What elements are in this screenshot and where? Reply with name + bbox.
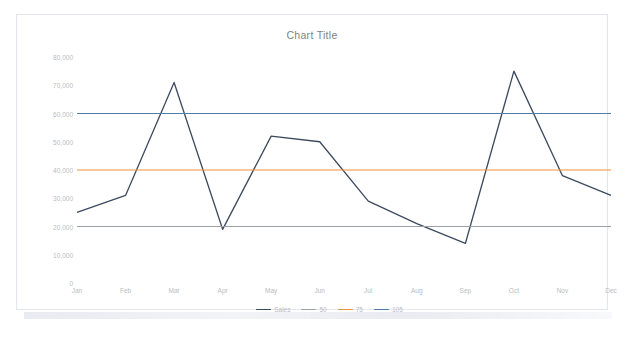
legend-item[interactable]: Sales (256, 306, 290, 313)
x-axis-tick-label: May (251, 287, 291, 294)
legend-item-label: 75 (356, 306, 363, 313)
legend-item[interactable]: 50 (301, 306, 326, 313)
x-axis-tick-label: Jan (57, 287, 97, 294)
x-axis-tick-label: Feb (106, 287, 146, 294)
x-axis-tick-label: Dec (591, 287, 625, 294)
x-axis-tick-label: Sep (445, 287, 485, 294)
y-axis-tick-label: 50,000 (33, 138, 73, 145)
x-axis[interactable]: JanFebMarAprMayJunJulAugSepOctNovDec (77, 287, 611, 301)
legend-swatch-icon (338, 309, 353, 311)
x-axis-tick-label: Nov (542, 287, 582, 294)
chart-legend[interactable]: Sales5075105 (17, 306, 625, 313)
y-axis-tick-label: 80,000 (33, 54, 73, 61)
y-axis-tick-label: 0 (33, 280, 73, 287)
x-axis-tick-label: Jun (300, 287, 340, 294)
x-axis-tick-label: Jul (348, 287, 388, 294)
x-axis-tick-label: Aug (397, 287, 437, 294)
y-axis[interactable]: 010,00020,00030,00040,00050,00060,00070,… (31, 57, 73, 283)
x-axis-tick-label: Oct (494, 287, 534, 294)
legend-item[interactable]: 75 (338, 306, 363, 313)
series-line[interactable] (77, 71, 611, 243)
y-axis-tick-label: 60,000 (33, 110, 73, 117)
y-axis-tick-label: 10,000 (33, 251, 73, 258)
legend-swatch-icon (301, 309, 316, 311)
legend-item-label: 50 (319, 306, 326, 313)
plot-svg (77, 57, 611, 283)
y-axis-tick-label: 30,000 (33, 195, 73, 202)
legend-item[interactable]: 105 (374, 306, 403, 313)
legend-swatch-icon (256, 309, 271, 311)
chart-title[interactable]: Chart Title (17, 29, 607, 41)
plot-area[interactable] (77, 57, 611, 283)
x-axis-tick-label: Apr (203, 287, 243, 294)
y-axis-tick-label: 20,000 (33, 223, 73, 230)
legend-item-label: 105 (392, 306, 403, 313)
chart-container[interactable]: Chart Title 010,00020,00030,00040,00050,… (16, 14, 608, 310)
legend-item-label: Sales (274, 306, 290, 313)
y-axis-tick-label: 70,000 (33, 82, 73, 89)
legend-swatch-icon (374, 309, 389, 311)
chart-frame-shadow (24, 312, 612, 319)
y-axis-tick-label: 40,000 (33, 167, 73, 174)
x-axis-tick-label: Mar (154, 287, 194, 294)
